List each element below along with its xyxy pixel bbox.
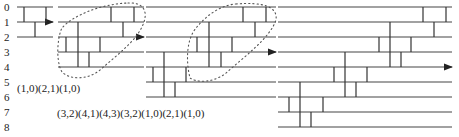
row-label-7: 7 <box>4 106 10 118</box>
row-label-6: 6 <box>4 91 10 103</box>
panel-1 <box>17 7 53 37</box>
row-labels: 0 1 2 3 4 5 6 7 8 <box>4 1 10 133</box>
row-label-0: 0 <box>4 1 10 13</box>
sequence-first: (1,0)(2,1)(1,0) <box>17 82 81 95</box>
row-label-3: 3 <box>4 46 10 58</box>
row-label-2: 2 <box>4 31 10 43</box>
row-label-8: 8 <box>4 121 10 133</box>
row-label-5: 5 <box>4 76 10 88</box>
row-label-4: 4 <box>4 61 10 73</box>
sequence-second: (3,2)(4,1)(4,3)(3,2)(1,0)(2,1)(1,0) <box>57 107 205 120</box>
panel-4 <box>278 7 452 127</box>
panel-3 <box>146 4 276 97</box>
ladder-diagram: 0 1 2 3 4 5 6 7 8 <box>0 0 459 137</box>
panel-2 <box>58 3 145 78</box>
row-label-1: 1 <box>4 16 10 28</box>
